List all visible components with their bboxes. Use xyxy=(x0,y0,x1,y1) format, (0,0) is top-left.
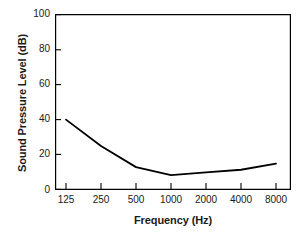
data-series-line xyxy=(66,120,276,175)
plot-svg xyxy=(55,14,291,190)
x-tick-label-1000: 1000 xyxy=(151,194,191,206)
y-tick-label-80: 80 xyxy=(24,44,50,54)
x-tick-label-500: 500 xyxy=(116,194,156,206)
plot-area xyxy=(55,14,291,190)
y-tick-label-40: 40 xyxy=(24,114,50,124)
x-tick-label-250: 250 xyxy=(81,194,121,206)
x-axis-title: Frequency (Hz) xyxy=(55,214,291,226)
x-tick-label-4000: 4000 xyxy=(221,194,261,206)
x-axis-ticks xyxy=(66,183,276,189)
y-tick-label-60: 60 xyxy=(24,79,50,89)
x-tick-label-8000: 8000 xyxy=(256,194,296,206)
y-tick-label-100: 100 xyxy=(24,9,50,19)
x-axis-tick-labels: 125 250 500 1000 2000 4000 8000 xyxy=(0,194,302,208)
x-tick-label-125: 125 xyxy=(46,194,86,206)
x-tick-label-2000: 2000 xyxy=(186,194,226,206)
axis-frame xyxy=(56,15,291,190)
chart-figure: Sound Pressure Level (dB) 100 80 60 40 2… xyxy=(0,0,302,234)
y-tick-label-20: 20 xyxy=(24,149,50,159)
